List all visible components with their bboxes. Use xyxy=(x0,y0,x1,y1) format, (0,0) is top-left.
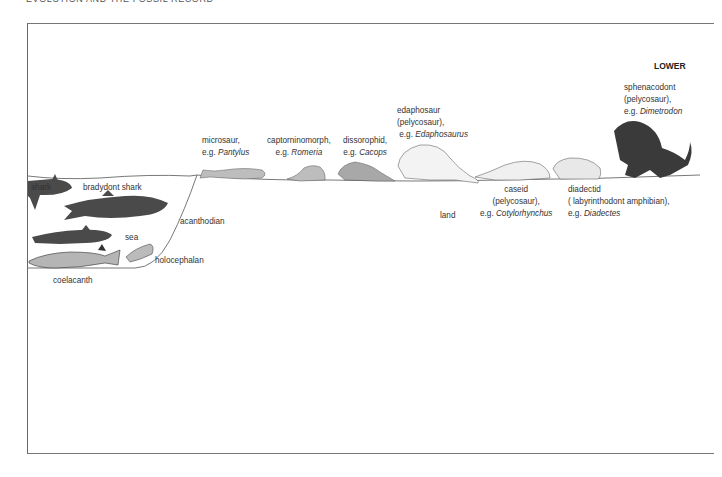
holocephalan-illustration xyxy=(126,244,153,262)
dissorophid-illustration xyxy=(338,162,395,181)
coelacanth-illustration xyxy=(29,244,120,268)
captorhinomorph-illustration xyxy=(287,166,325,181)
label-coelacanth: coelacanth xyxy=(53,275,93,287)
label-sea: sea xyxy=(125,232,138,244)
label-bradydont-shark: bradydont shark xyxy=(83,182,142,194)
label-microsaur: microsaur, e.g. Pantylus xyxy=(202,135,249,159)
label-land: land xyxy=(440,210,455,222)
label-dissorophid: dissorophid, e.g. Cacops xyxy=(343,135,387,159)
period-label: LOWER xyxy=(654,61,686,71)
label-captorhinomorph: captorninomorph, e.g. Romeria xyxy=(267,135,331,159)
label-holocephalan: holocephalan xyxy=(155,255,204,267)
label-diadectid: diadectid ( labyrinthodont amphibian), e… xyxy=(568,184,670,220)
microsaur-illustration xyxy=(200,169,265,180)
label-shark: shark xyxy=(31,182,51,194)
acanthodian-illustration xyxy=(32,225,112,244)
bradydont-shark-illustration xyxy=(64,190,168,220)
figure-illustration xyxy=(0,0,722,477)
edaphosaur-illustration xyxy=(398,145,478,183)
caseid-illustration xyxy=(475,161,550,180)
diadectid-illustration xyxy=(553,158,601,179)
label-caseid: caseid (pelycosaur), e.g. Cotylorhynchus xyxy=(480,184,552,220)
dimetrodon-illustration xyxy=(614,121,692,178)
label-sphenacodont: sphenacodont (pelycosaur), e.g. Dimetrod… xyxy=(624,82,682,118)
label-edaphosaur: edaphosaur (pelycosaur), e.g. Edaphosaur… xyxy=(397,105,468,141)
label-acanthodian: acanthodian xyxy=(180,216,225,228)
